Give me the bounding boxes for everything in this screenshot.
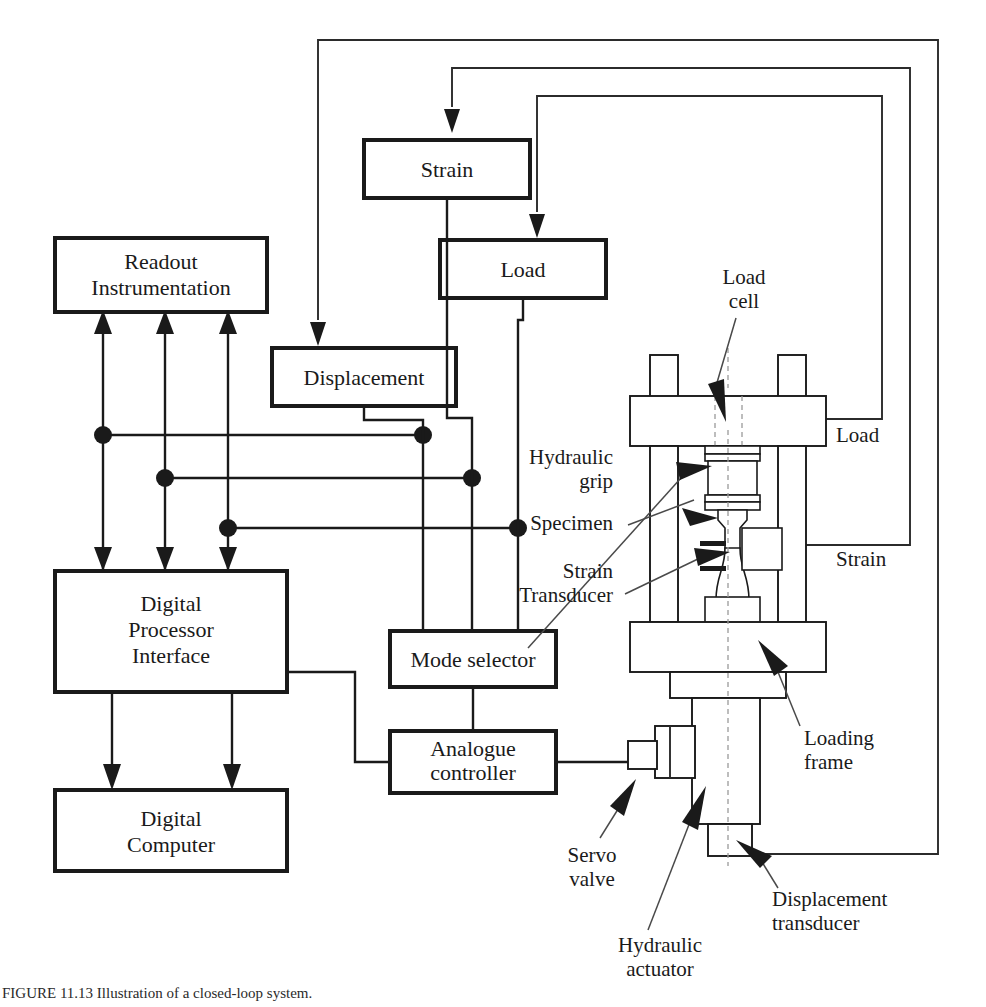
junction-dot	[219, 519, 237, 537]
wire-dpi-to-analogue	[287, 672, 390, 762]
label-hydraulic-grip-line1: Hydraulic	[529, 445, 613, 469]
label-servo-valve-line2: valve	[569, 867, 614, 891]
label-strain-transducer-line1: Strain	[563, 559, 614, 583]
block-readout-label-1: Readout	[124, 249, 197, 274]
label-loading-frame-line2: frame	[804, 750, 853, 774]
block-dpi-label-2: Processor	[128, 617, 214, 642]
leader-loading-frame	[778, 672, 800, 726]
servo-valve-block	[655, 726, 695, 778]
block-dpi-label-3: Interface	[132, 643, 210, 668]
machine-post-top-right	[778, 355, 806, 399]
feedback-label-strain: Strain	[836, 547, 887, 571]
figure-canvas: Load Strain Strain Load Displacement Mod…	[0, 0, 986, 1007]
block-analogue-controller-label-2: controller	[430, 760, 516, 785]
leader-load-cell	[716, 318, 736, 386]
label-strain-transducer-line2: Transducer	[519, 583, 613, 607]
grip-plate-2	[705, 454, 760, 461]
wire-load-to-mode	[518, 298, 523, 631]
leader-hydraulic-actuator	[648, 822, 690, 930]
wire-dpi-to-computer	[103, 692, 241, 790]
machine-upper-crosshead	[630, 396, 826, 446]
arrowhead-servo-valve	[610, 779, 636, 816]
label-hydraulic-actuator-line1: Hydraulic	[618, 933, 702, 957]
label-displacement-transducer-line1: Displacement	[772, 887, 888, 911]
block-readout-label-2: Instrumentation	[91, 275, 230, 300]
machine-column-left	[650, 446, 678, 622]
label-hydraulic-grip-line2: grip	[579, 469, 613, 493]
block-computer-label-2: Computer	[127, 832, 216, 857]
block-displacement-label: Displacement	[304, 365, 425, 390]
label-specimen: Specimen	[530, 511, 613, 535]
block-computer-label-1: Digital	[140, 806, 201, 831]
displacement-transducer-rod	[708, 824, 752, 856]
feedback-label-load: Load	[836, 423, 880, 447]
junction-dot	[94, 426, 112, 444]
diagram-svg: Load Strain Strain Load Displacement Mod…	[0, 0, 986, 1007]
figure-caption: FIGURE 11.13 Illustration of a closed-lo…	[2, 985, 312, 1007]
arrowhead-hydraulic-grip	[676, 462, 712, 480]
strain-transducer-body	[742, 528, 782, 570]
strain-knife-edge-lower	[700, 566, 726, 571]
label-load-cell-line2: cell	[729, 289, 759, 313]
grip-plate-1	[705, 446, 760, 454]
label-hydraulic-actuator-line2: actuator	[626, 957, 694, 981]
block-strain-label: Strain	[421, 157, 474, 182]
grip-plate-3	[705, 495, 760, 502]
grip-plate-4	[705, 502, 760, 510]
label-load-cell-line1: Load	[722, 265, 766, 289]
testing-machine-illustration	[628, 348, 826, 866]
bus-readout-dpi	[94, 310, 237, 571]
block-dpi-label-1: Digital	[140, 591, 201, 616]
junction-dot	[156, 469, 174, 487]
grip-body-lower	[705, 597, 760, 623]
grip-body-upper	[708, 461, 757, 495]
strain-knife-edge-upper	[700, 541, 726, 546]
label-displacement-transducer-line2: transducer	[772, 911, 859, 935]
block-load-label: Load	[500, 257, 545, 282]
wire-displacement-to-mode	[364, 406, 423, 631]
label-servo-valve-line1: Servo	[568, 843, 617, 867]
leader-displacement-transducer	[762, 862, 778, 888]
machine-post-top-left	[650, 355, 678, 399]
servo-valve-port	[628, 741, 657, 769]
block-mode-selector-label: Mode selector	[410, 647, 536, 672]
label-loading-frame-line1: Loading	[804, 726, 874, 750]
block-analogue-controller-label-1: Analogue	[430, 736, 516, 761]
